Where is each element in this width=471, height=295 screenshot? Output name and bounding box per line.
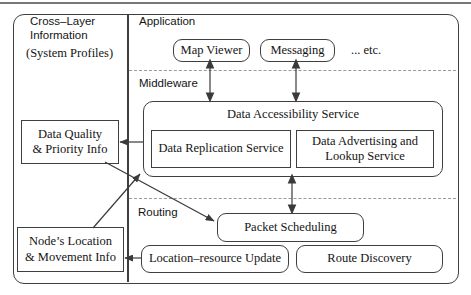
node-location-line2: & Movement Info xyxy=(25,250,116,265)
node-location-box: Node’s Location & Movement Info xyxy=(17,227,124,272)
cross-layer-title-line2: Information xyxy=(30,29,88,43)
middleware-layer-label: Middleware xyxy=(139,77,198,91)
etc-label: ... etc. xyxy=(351,43,381,58)
location-resource-update-box: Location–resource Update xyxy=(141,245,289,273)
data-replication-label: Data Replication Service xyxy=(159,141,284,156)
packet-scheduling-box: Packet Scheduling xyxy=(217,213,364,242)
top-rule xyxy=(0,2,471,4)
data-replication-service-box: Data Replication Service xyxy=(151,130,291,168)
column-divider xyxy=(127,14,129,282)
architecture-figure: Cross–Layer Information (System Profiles… xyxy=(0,0,471,295)
node-location-line1: Node’s Location xyxy=(29,234,112,249)
data-advertising-line1: Data Advertising and xyxy=(312,134,418,149)
route-discovery-box: Route Discovery xyxy=(296,245,443,273)
messaging-label: Messaging xyxy=(270,43,324,58)
data-accessibility-title: Data Accessibility Service xyxy=(144,107,442,122)
data-advertising-line2: Lookup Service xyxy=(325,149,405,164)
map-viewer-box: Map Viewer xyxy=(173,39,250,62)
middleware-routing-divider xyxy=(129,198,456,199)
cross-layer-title-line1: Cross–Layer xyxy=(30,15,95,29)
data-quality-line1: Data Quality xyxy=(38,127,102,142)
application-middleware-divider xyxy=(129,70,456,71)
data-advertising-box: Data Advertising and Lookup Service xyxy=(296,130,434,168)
application-layer-label: Application xyxy=(139,15,195,29)
data-quality-box: Data Quality & Priority Info xyxy=(21,120,119,164)
location-resource-update-label: Location–resource Update xyxy=(149,251,281,266)
system-profiles-subtitle: (System Profiles) xyxy=(26,46,113,61)
data-quality-line2: & Priority Info xyxy=(33,142,108,157)
routing-layer-label: Routing xyxy=(138,206,178,220)
packet-scheduling-label: Packet Scheduling xyxy=(244,220,337,235)
messaging-box: Messaging xyxy=(260,39,335,62)
map-viewer-label: Map Viewer xyxy=(181,43,243,58)
route-discovery-label: Route Discovery xyxy=(327,251,411,266)
